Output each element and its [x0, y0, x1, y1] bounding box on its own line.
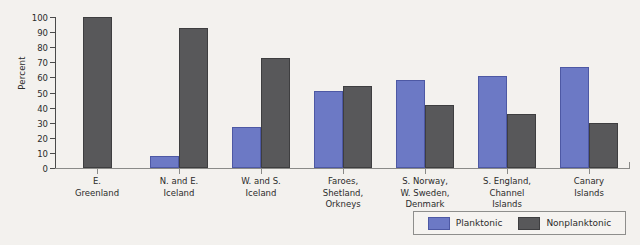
category-label-line: Islands	[468, 199, 546, 211]
bar-group-bars	[220, 17, 302, 168]
category-label-line: Shetland,	[304, 188, 382, 200]
category-label-line: Denmark	[386, 199, 464, 211]
category-label-line: W. and S.	[222, 176, 300, 188]
plot-area	[56, 17, 630, 168]
bar-chart: Percent 1009080706050403020100 E.Greenla…	[0, 0, 640, 245]
legend-swatch-nonplanktonic	[518, 217, 540, 230]
legend-swatch-planktonic	[428, 217, 450, 230]
x-axis-tick-mark	[425, 168, 426, 174]
x-axis-category-label: S. Norway,W. Sweden,Denmark	[384, 176, 466, 211]
x-axis-tick-mark	[261, 168, 262, 174]
bar-group	[384, 17, 466, 168]
y-axis-tick-label: 100	[24, 13, 48, 23]
category-label-line: Islands	[550, 188, 628, 200]
legend-item-nonplanktonic: Nonplanktonic	[518, 217, 611, 230]
bar-group-bars	[138, 17, 220, 168]
category-label-line: Iceland	[140, 188, 218, 200]
bar-nonplanktonic	[179, 28, 208, 168]
bar-group-bars	[548, 17, 630, 168]
bar-groups	[56, 17, 630, 168]
x-axis-category-label: E.Greenland	[56, 176, 138, 211]
bar-planktonic	[150, 156, 179, 168]
bar-nonplanktonic	[589, 123, 618, 168]
bar-planktonic	[560, 67, 589, 168]
category-label-line: Orkneys	[304, 199, 382, 211]
category-label-line: S. Norway,	[386, 176, 464, 188]
category-labels: E.GreenlandN. and E.IcelandW. and S.Icel…	[56, 176, 630, 211]
y-axis-tick-label: 0	[24, 164, 48, 174]
bar-nonplanktonic	[83, 17, 112, 168]
y-axis-tick-label: 40	[24, 104, 48, 114]
legend-label-planktonic: Planktonic	[456, 218, 503, 228]
x-axis-tick-mark	[589, 168, 590, 174]
legend-item-planktonic: Planktonic	[428, 217, 503, 230]
category-label-line: Canary	[550, 176, 628, 188]
x-axis-category-label: W. and S.Iceland	[220, 176, 302, 211]
category-label-line: Channel	[468, 188, 546, 200]
bar-planktonic	[314, 91, 343, 168]
bar-group-bars	[466, 17, 548, 168]
bar-group	[56, 17, 138, 168]
bar-nonplanktonic	[261, 58, 290, 168]
y-axis-tick-label: 30	[24, 119, 48, 129]
bar-group-bars	[302, 17, 384, 168]
bar-group	[548, 17, 630, 168]
y-axis-tick-label: 10	[24, 149, 48, 159]
bar-nonplanktonic	[507, 114, 536, 168]
bar-planktonic	[396, 80, 425, 168]
bar-group	[302, 17, 384, 168]
x-axis-tick-mark	[97, 168, 98, 174]
category-label-line: N. and E.	[140, 176, 218, 188]
bar-group	[220, 17, 302, 168]
bar-group	[138, 17, 220, 168]
category-label-line: Faroes,	[304, 176, 382, 188]
bar-nonplanktonic	[425, 105, 454, 168]
x-axis-tick-mark	[343, 168, 344, 174]
y-axis-tick-label: 80	[24, 43, 48, 53]
chart-legend: Planktonic Nonplanktonic	[413, 211, 626, 235]
bar-planktonic	[232, 127, 261, 168]
x-axis-category-label: S. England,ChannelIslands	[466, 176, 548, 211]
y-axis-tick-label: 90	[24, 28, 48, 38]
y-axis-tick-label: 20	[24, 134, 48, 144]
x-axis-category-label: Faroes,Shetland,Orkneys	[302, 176, 384, 211]
y-axis-tick-label: 70	[24, 58, 48, 68]
y-axis-tick-label: 60	[24, 73, 48, 83]
legend-label-nonplanktonic: Nonplanktonic	[546, 218, 611, 228]
y-axis-tick-label: 50	[24, 89, 48, 99]
category-label-line: S. England,	[468, 176, 546, 188]
x-axis-category-label: CanaryIslands	[548, 176, 630, 211]
category-label-line: E.	[58, 176, 136, 188]
category-label-line: Iceland	[222, 188, 300, 200]
bar-group	[466, 17, 548, 168]
x-axis-category-label: N. and E.Iceland	[138, 176, 220, 211]
category-label-line: W. Sweden,	[386, 188, 464, 200]
x-axis-tick-mark	[507, 168, 508, 174]
x-axis-tick-mark	[179, 168, 180, 174]
bar-nonplanktonic	[343, 86, 372, 168]
bar-group-bars	[56, 17, 138, 168]
bar-group-bars	[384, 17, 466, 168]
bar-planktonic	[478, 76, 507, 168]
category-label-line: Greenland	[58, 188, 136, 200]
